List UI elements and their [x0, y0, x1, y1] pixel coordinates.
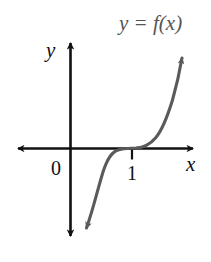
curve-equation-label: y = f(x) — [117, 11, 182, 35]
x-axis-label: x — [185, 152, 196, 176]
function-graph-figure: y x 0 1 y = f(x) — [0, 0, 211, 262]
x-tick-label-1: 1 — [127, 162, 137, 184]
y-axis-label: y — [44, 38, 56, 62]
graph-canvas: y x 0 1 y = f(x) — [0, 0, 211, 262]
function-curve — [87, 58, 183, 228]
origin-label: 0 — [51, 157, 61, 179]
